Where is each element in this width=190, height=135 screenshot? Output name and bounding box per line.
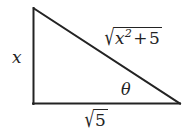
base-label: √5 bbox=[84, 110, 108, 130]
base-radical-expression: √5 bbox=[84, 110, 108, 130]
triangle-hypotenuse bbox=[34, 9, 180, 104]
vertical-leg-label: x bbox=[12, 49, 22, 66]
radical-expression: √x2+5 bbox=[104, 28, 162, 48]
radicand-constant: 5 bbox=[149, 28, 160, 48]
base-radicand: 5 bbox=[94, 109, 108, 129]
radicand-operator: + bbox=[132, 28, 149, 48]
hypotenuse-label: √x2+5 bbox=[104, 28, 162, 48]
radicand-exponent: 2 bbox=[125, 27, 132, 40]
radicand-variable: x bbox=[115, 28, 125, 48]
right-triangle-figure: x θ √x2+5 √5 bbox=[0, 0, 190, 135]
angle-theta-label: θ bbox=[121, 82, 131, 98]
radicand-group: x2+5 bbox=[114, 27, 162, 47]
